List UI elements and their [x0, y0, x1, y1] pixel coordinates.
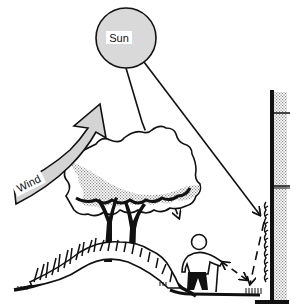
sun-label: Sun [109, 32, 129, 44]
sun-icon: Sun [96, 8, 156, 68]
wall-vine-icon [265, 202, 269, 282]
building-wall [255, 90, 290, 302]
shrubs-on-mound [14, 238, 196, 296]
person-icon [182, 235, 222, 293]
microclimate-diagram: Sun [0, 0, 300, 307]
